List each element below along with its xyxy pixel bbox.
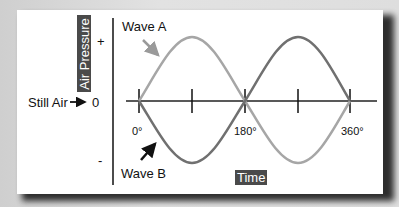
still-air-label: Still Air bbox=[28, 96, 68, 109]
tick-label-360: 360° bbox=[341, 126, 364, 137]
wave-a-label: Wave A bbox=[122, 20, 166, 33]
y-axis-minus-label: - bbox=[98, 154, 102, 167]
wave-b-arrow bbox=[141, 144, 155, 160]
tick-label-180: 180° bbox=[234, 126, 257, 137]
tick-label-0: 0° bbox=[132, 126, 143, 137]
wave-b-curve bbox=[139, 37, 350, 163]
wave-b-label: Wave B bbox=[121, 167, 166, 180]
y-axis-title: Air Pressure bbox=[78, 18, 91, 90]
y-axis-title-box: Air Pressure bbox=[77, 15, 91, 92]
wave-a-arrow bbox=[143, 40, 158, 55]
y-axis-zero-label: 0 bbox=[92, 96, 99, 109]
x-axis-title: Time bbox=[235, 170, 267, 185]
y-axis-plus-label: + bbox=[97, 35, 105, 48]
